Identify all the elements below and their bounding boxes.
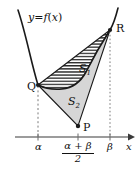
region-label-s2: S2 [68, 96, 80, 110]
point-p-marker [76, 124, 80, 128]
midpoint-denominator: 2 [62, 154, 94, 165]
region-label-s1: S1 [79, 63, 91, 77]
axis-tick-label-beta: β [107, 142, 113, 152]
x-axis-label: x [126, 142, 132, 152]
region-label-s2-subscript: 2 [76, 102, 80, 110]
region-label-s1-text: S [79, 62, 87, 75]
parabola-area-figure: y=f(x) Q R P S1 S2 α α + β 2 β x [0, 0, 140, 175]
region-label-s2-text: S [68, 95, 76, 108]
point-label-q: Q [27, 81, 36, 92]
curve-label-close-paren: ) [58, 11, 62, 24]
point-label-r: R [116, 23, 124, 34]
axis-tick-label-midpoint: α + β 2 [62, 141, 94, 164]
point-q-marker [36, 83, 40, 87]
axis-tick-label-alpha: α [35, 142, 42, 152]
point-label-p: P [83, 122, 90, 133]
point-r-marker [108, 28, 112, 32]
x-axis-arrowhead [128, 133, 135, 140]
curve-function-label: y=f(x) [28, 12, 62, 23]
midpoint-numerator: α + β [62, 141, 94, 152]
region-label-s1-subscript: 1 [87, 69, 91, 77]
